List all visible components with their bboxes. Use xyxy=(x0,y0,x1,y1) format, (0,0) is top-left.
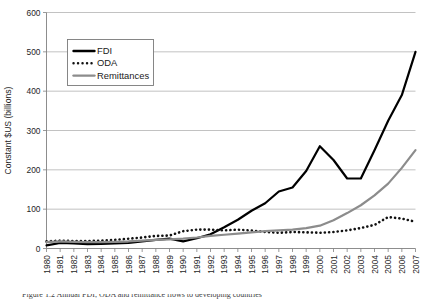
legend-label-oda: ODA xyxy=(97,57,118,68)
x-tick-label: 1988 xyxy=(151,255,161,274)
line-chart: 0100200300400500600198019811982198319841… xyxy=(0,0,426,301)
x-tick-label: 2004 xyxy=(370,255,380,274)
x-tick-label: 1997 xyxy=(274,255,284,274)
y-tick-label: 300 xyxy=(27,126,41,136)
x-tick-label: 1993 xyxy=(219,255,229,274)
x-tick-label: 2006 xyxy=(397,255,407,274)
x-tick-label: 1994 xyxy=(233,255,243,274)
x-tick-label: 2000 xyxy=(315,255,325,274)
x-tick-label: 1986 xyxy=(124,255,134,274)
x-tick-label: 1980 xyxy=(42,255,52,274)
x-tick-label: 1984 xyxy=(96,255,106,274)
y-tick-label: 400 xyxy=(27,86,41,96)
x-tick-label: 1990 xyxy=(178,255,188,274)
x-tick-label: 1989 xyxy=(165,255,175,274)
x-tick-label: 1998 xyxy=(288,255,298,274)
x-tick-label: 1987 xyxy=(137,255,147,274)
series-line-oda xyxy=(47,217,416,241)
x-tick-label: 1995 xyxy=(247,255,257,274)
figure-container: 0100200300400500600198019811982198319841… xyxy=(0,0,426,301)
x-tick-label: 2001 xyxy=(329,255,339,274)
x-tick-label: 1981 xyxy=(55,255,65,274)
x-tick-label: 1991 xyxy=(192,255,202,274)
x-tick-label: 2003 xyxy=(356,255,366,274)
y-tick-label: 200 xyxy=(27,165,41,175)
x-tick-label: 1999 xyxy=(301,255,311,274)
legend-label-remittances: Remittances xyxy=(97,70,149,81)
y-tick-label: 0 xyxy=(36,244,41,254)
x-tick-label: 2007 xyxy=(411,255,421,274)
y-tick-label: 500 xyxy=(27,47,41,57)
x-tick-label: 2005 xyxy=(383,255,393,274)
figure-caption-strip: Figure 1.2 Annual FDI, ODA and remittanc… xyxy=(0,294,426,301)
figure-caption: Figure 1.2 Annual FDI, ODA and remittanc… xyxy=(22,294,262,299)
y-tick-label: 600 xyxy=(27,8,41,18)
x-tick-label: 1985 xyxy=(110,255,120,274)
x-tick-label: 1996 xyxy=(260,255,270,274)
x-tick-label: 2002 xyxy=(342,255,352,274)
legend-label-fdi: FDI xyxy=(97,45,112,56)
y-axis-title: Constant $US (billions) xyxy=(3,86,13,174)
x-tick-label: 1983 xyxy=(83,255,93,274)
y-tick-label: 100 xyxy=(27,204,41,214)
x-tick-label: 1992 xyxy=(206,255,216,274)
x-tick-label: 1982 xyxy=(69,255,79,274)
